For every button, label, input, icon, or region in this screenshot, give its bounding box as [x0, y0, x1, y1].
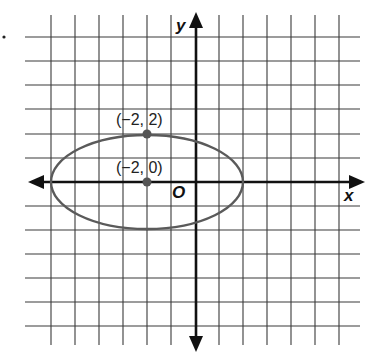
x-axis-left-arrow-icon [28, 175, 44, 189]
point-center [143, 178, 152, 187]
origin-label: O [172, 183, 185, 202]
point-label-vertex: (−2, 2) [116, 111, 163, 128]
y-axis-label: y [175, 16, 187, 35]
grid [25, 15, 360, 345]
y-axis-up-arrow-icon [189, 12, 203, 28]
stray-dot [2, 35, 5, 38]
y-axis-down-arrow-icon [189, 336, 203, 352]
x-axis-label: x [343, 186, 355, 205]
coordinate-plane: (−2, 2) (−2, 0) O x y [0, 0, 376, 362]
point-label-center: (−2, 0) [116, 159, 163, 176]
point-vertex [143, 130, 152, 139]
